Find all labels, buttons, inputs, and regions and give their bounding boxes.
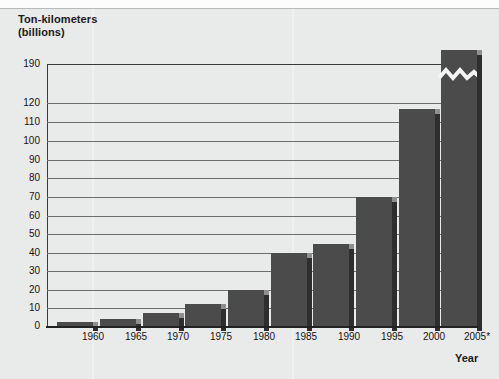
- bar-1985: [271, 253, 307, 326]
- y-tick-label-190: 190: [10, 58, 40, 69]
- x-tick-label-1985: 1985: [284, 331, 328, 342]
- gridline: [47, 103, 476, 104]
- bar-shadow-top: [392, 197, 397, 202]
- y-tick-label-70: 70: [10, 191, 40, 202]
- bar-shadow-top: [179, 313, 184, 318]
- bar-1970: [143, 313, 179, 326]
- bar-shadow: [307, 258, 312, 331]
- y-tick-label-80: 80: [10, 172, 40, 183]
- y-axis-title-line1: Ton-kilometers: [18, 13, 97, 25]
- y-axis-title-line2: (billions): [18, 26, 97, 39]
- y-tick-label-20: 20: [10, 284, 40, 295]
- x-tick-label-1960: 1960: [71, 331, 115, 342]
- bar-2005: [441, 50, 477, 326]
- bar-shadow-top: [264, 290, 269, 295]
- bar-1975: [185, 304, 221, 326]
- gridline: [47, 64, 476, 65]
- y-tick-label-110: 110: [10, 116, 40, 127]
- bar-shadow: [477, 55, 482, 331]
- bar-shadow: [179, 318, 184, 331]
- y-tick-label-60: 60: [10, 210, 40, 221]
- chart-figure: Ton-kilometers (billions) Year 190120110…: [0, 0, 499, 379]
- bar-shadow-top: [136, 319, 141, 324]
- bar-1990: [313, 244, 349, 326]
- bar-shadow: [392, 202, 397, 331]
- top-divider-rule: [0, 8, 499, 9]
- y-tick-label-120: 120: [10, 97, 40, 108]
- bar-shadow: [435, 114, 440, 331]
- y-tick-label-30: 30: [10, 265, 40, 276]
- bar-shadow-top: [477, 50, 482, 55]
- x-tick-label-2000: 2000: [412, 331, 456, 342]
- y-tick-label-0: 0: [10, 320, 40, 331]
- x-tick-label-1975: 1975: [199, 331, 243, 342]
- bar-1995: [356, 197, 392, 326]
- x-tick-label-2005: 2005*: [455, 331, 499, 342]
- x-axis-title: Year: [455, 352, 478, 364]
- y-tick-label-90: 90: [10, 154, 40, 165]
- bar-1965: [100, 319, 136, 326]
- plot-area: [47, 64, 477, 327]
- x-axis-line: [46, 326, 478, 328]
- y-axis-title: Ton-kilometers (billions): [18, 13, 97, 39]
- bar-shadow-top: [435, 109, 440, 114]
- bar-2000: [399, 109, 435, 326]
- y-tick-label-50: 50: [10, 228, 40, 239]
- y-tick-label-10: 10: [10, 302, 40, 313]
- y-tick-label-100: 100: [10, 135, 40, 146]
- bar-shadow-top: [307, 253, 312, 258]
- y-tick-label-40: 40: [10, 247, 40, 258]
- bar-shadow: [349, 249, 354, 331]
- x-tick-label-1965: 1965: [114, 331, 158, 342]
- bar-1980: [228, 290, 264, 326]
- x-tick-label-1990: 1990: [327, 331, 371, 342]
- x-tick-label-1970: 1970: [156, 331, 200, 342]
- x-tick-label-1980: 1980: [242, 331, 286, 342]
- x-tick-label-1995: 1995: [370, 331, 414, 342]
- bar-shadow-top: [221, 304, 226, 309]
- bar-shadow-top: [349, 244, 354, 249]
